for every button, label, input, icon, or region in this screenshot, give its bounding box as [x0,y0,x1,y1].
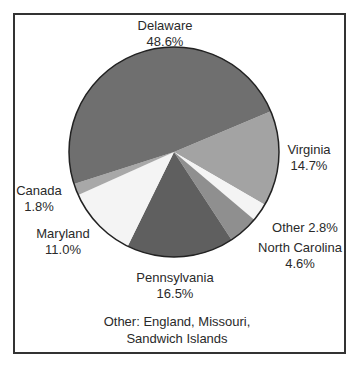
label-north-carolina-name: North Carolina [250,240,350,256]
label-north-carolina-pct: 4.6% [250,256,350,272]
label-maryland: Maryland 11.0% [28,226,98,258]
label-virginia-name: Virginia [284,142,334,158]
label-other: Other 2.8% [265,220,345,236]
label-pennsylvania-pct: 16.5% [130,286,220,302]
label-pennsylvania-name: Pennsylvania [130,270,220,286]
pie-slices [69,47,279,257]
label-north-carolina: North Carolina 4.6% [250,240,350,272]
label-maryland-name: Maryland [28,226,98,242]
label-other-text: Other 2.8% [265,220,345,236]
label-virginia-pct: 14.7% [284,158,334,174]
label-maryland-pct: 11.0% [28,242,98,258]
footnote-other: Other: England, Missouri, Sandwich Islan… [0,313,354,347]
label-delaware: Delaware 48.6% [125,18,205,50]
label-delaware-name: Delaware [125,18,205,34]
label-canada: Canada 1.8% [14,183,64,215]
label-pennsylvania: Pennsylvania 16.5% [130,270,220,302]
label-virginia: Virginia 14.7% [284,142,334,174]
label-canada-name: Canada [14,183,64,199]
label-delaware-pct: 48.6% [125,34,205,50]
footnote-line1: Other: England, Missouri, [0,313,354,330]
footnote-line2: Sandwich Islands [0,330,354,347]
label-canada-pct: 1.8% [14,199,64,215]
